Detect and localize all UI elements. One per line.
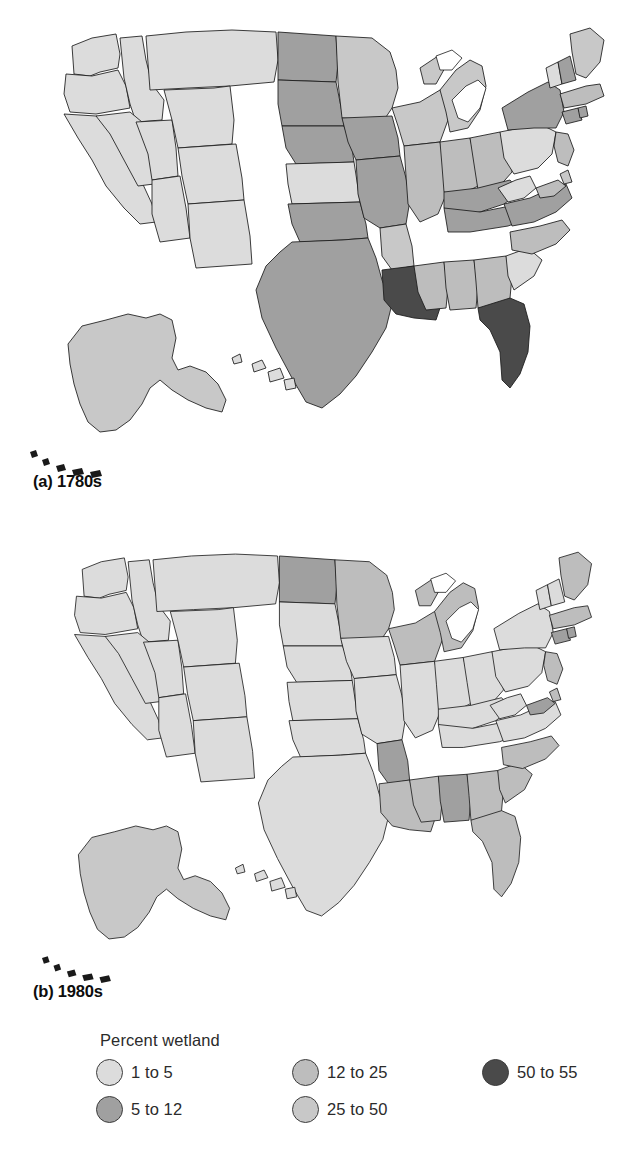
state-al	[438, 774, 471, 822]
panel-label-b: (b) 1980s	[33, 982, 103, 1001]
state-ok	[289, 719, 366, 757]
state-ny	[502, 82, 564, 130]
state-ak	[68, 314, 226, 432]
state-nm	[193, 717, 254, 782]
state-ri	[567, 627, 577, 638]
state-de	[549, 688, 560, 701]
legend-item-1-to-5: 1 to 5	[96, 1059, 292, 1086]
legend-item-25-to-50: 25 to 50	[292, 1096, 482, 1123]
legend-label-1-to-5: 1 to 5	[131, 1063, 173, 1082]
state-mn	[335, 560, 394, 640]
wetland-figure: (a) 1780s (b) 1980s Percent wetland 1 to…	[0, 0, 623, 1157]
state-co	[178, 144, 244, 204]
state-or	[75, 592, 138, 634]
legend-item-5-to-12: 5 to 12	[96, 1096, 292, 1123]
state-nd	[279, 556, 336, 604]
map-panel-1780s: (a) 1780s	[0, 0, 623, 515]
legend-swatch-50-to-55	[482, 1059, 509, 1086]
legend-swatch-1-to-5	[96, 1059, 123, 1086]
state-mn	[336, 36, 398, 120]
legend-title: Percent wetland	[100, 1031, 616, 1050]
state-ks	[287, 680, 358, 720]
legend-item-12-to-25: 12 to 25	[292, 1059, 482, 1086]
state-nd	[278, 32, 338, 82]
state-tx	[256, 238, 392, 408]
choropleth-map-1780s	[0, 8, 623, 478]
state-mt	[146, 30, 278, 90]
state-sd	[279, 602, 342, 646]
state-wa	[82, 558, 128, 598]
state-sc	[498, 763, 532, 803]
aleutian-island-1	[30, 450, 38, 458]
aleutian-island-2	[53, 964, 61, 972]
map-legend: Percent wetland 1 to 512 to 2550 to 555 …	[96, 1031, 616, 1128]
state-de	[560, 170, 572, 184]
state-nm	[188, 200, 252, 268]
state-ma	[560, 84, 604, 108]
state-al	[444, 260, 478, 310]
state-fl	[478, 298, 530, 388]
legend-label-50-to-55: 50 to 55	[517, 1063, 577, 1082]
legend-label-5-to-12: 5 to 12	[131, 1100, 182, 1119]
legend-label-12-to-25: 12 to 25	[327, 1063, 387, 1082]
state-ma	[549, 606, 591, 629]
choropleth-map-1980s	[0, 533, 623, 983]
state-ny	[494, 604, 553, 650]
aleutian-island-2	[42, 458, 50, 466]
state-mo	[356, 156, 410, 228]
legend-swatch-5-to-12	[96, 1096, 123, 1123]
state-sd	[278, 80, 344, 126]
panel-label-a: (a) 1780s	[33, 472, 102, 491]
state-fl	[471, 811, 521, 897]
legend-item-50-to-55: 50 to 55	[482, 1059, 616, 1086]
state-ok	[288, 202, 368, 242]
legend-swatch-12-to-25	[292, 1059, 319, 1086]
state-mt	[153, 554, 279, 611]
state-me	[559, 552, 592, 600]
state-nj	[554, 132, 574, 166]
state-ar	[377, 740, 410, 784]
aleutian-island-4	[82, 973, 93, 981]
state-co	[184, 663, 247, 720]
state-ne	[283, 646, 352, 682]
state-ne	[282, 126, 354, 164]
state-sc	[506, 248, 542, 290]
aleutian-island-1	[42, 956, 50, 964]
map-panel-1980s: (b) 1980s	[0, 515, 623, 1000]
aleutian-island-3	[56, 464, 66, 472]
state-me	[570, 28, 604, 78]
legend-label-25-to-50: 25 to 50	[327, 1100, 387, 1119]
legend-entries: 1 to 512 to 2550 to 555 to 1225 to 50	[96, 1054, 616, 1128]
state-tx	[258, 753, 388, 916]
legend-swatch-25-to-50	[292, 1096, 319, 1123]
state-ar	[380, 224, 414, 270]
state-mo	[354, 675, 406, 744]
state-ak	[78, 826, 229, 939]
state-ks	[286, 162, 360, 204]
state-wa	[72, 34, 120, 76]
state-nj	[544, 652, 563, 685]
state-ri	[578, 106, 588, 118]
great-lake-2	[436, 50, 462, 70]
great-lake-2	[431, 573, 456, 592]
state-or	[64, 70, 130, 114]
aleutian-island-3	[67, 970, 77, 978]
